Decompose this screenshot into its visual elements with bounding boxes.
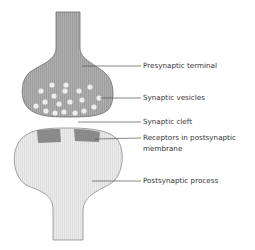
postsynaptic-process	[14, 128, 122, 240]
label-synaptic-cleft: Synaptic cleft	[143, 117, 192, 126]
label-postsynaptic-process: Postsynaptic process	[143, 176, 218, 185]
label-receptors-line2: membrane	[143, 144, 182, 153]
label-synaptic-vesicles: Synaptic vesicles	[143, 93, 205, 102]
label-presynaptic-terminal: Presynaptic terminal	[143, 61, 217, 70]
label-receptors-line1: Receptors in postsynaptic	[143, 133, 236, 142]
synapse-diagram	[0, 0, 255, 250]
